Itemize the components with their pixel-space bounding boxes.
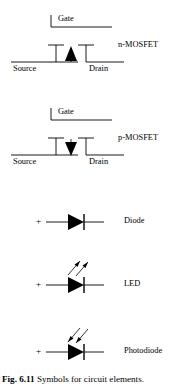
- photodiode-type-label: Photodiode: [124, 347, 162, 355]
- circuit-symbols-figure: .ln { stroke:#000; stroke-width:0.9; fil…: [0, 0, 187, 390]
- n-mosfet-type-label: n-MOSFET: [118, 41, 158, 49]
- photodiode-symbol: [46, 328, 104, 360]
- led-symbol: [46, 261, 104, 293]
- symbols-drawing: .ln { stroke:#000; stroke-width:0.9; fil…: [0, 0, 187, 390]
- n-mosfet-source-label: Source: [13, 65, 36, 73]
- led-triangle-icon: [68, 277, 84, 293]
- led-type-label: LED: [124, 280, 140, 288]
- led-light-emission-arrows-icon: [68, 261, 88, 276]
- n-mosfet-gate-label: Gate: [58, 15, 74, 23]
- diode-triangle-icon: [68, 214, 84, 230]
- photodiode-light-absorption-arrows-icon: [68, 328, 88, 343]
- figure-caption-text: Symbols for circuit elements.: [37, 374, 144, 384]
- led-polarity-label: +: [36, 280, 41, 289]
- p-mosfet-arrow-down-icon: [65, 142, 77, 156]
- p-mosfet-gate-label: Gate: [58, 108, 74, 116]
- p-mosfet-type-label: p-MOSFET: [118, 134, 158, 142]
- photodiode-triangle-icon: [68, 344, 84, 360]
- diode-type-label: Diode: [124, 217, 144, 225]
- figure-caption-number: Fig. 6.11: [2, 374, 35, 384]
- n-mosfet-drain-label: Drain: [89, 65, 108, 73]
- diode-polarity-label: +: [36, 217, 41, 226]
- p-mosfet-drain-label: Drain: [89, 158, 108, 166]
- diode-symbol: [46, 214, 104, 230]
- figure-caption: Fig. 6.11 Symbols for circuit elements.: [2, 374, 187, 384]
- photodiode-polarity-label: +: [36, 347, 41, 356]
- p-mosfet-source-label: Source: [13, 158, 36, 166]
- n-mosfet-arrow-up-icon: [65, 46, 77, 61]
